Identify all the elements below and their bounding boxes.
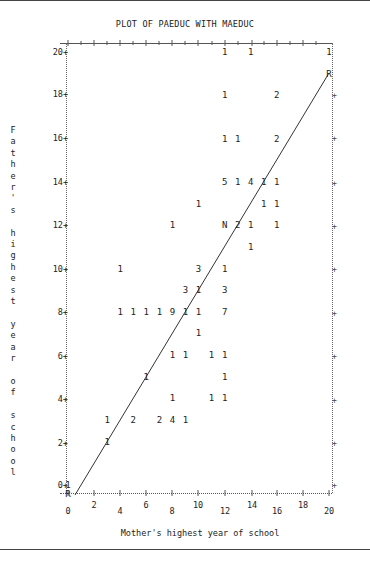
data-point: 1 <box>246 221 256 230</box>
data-point: 1 <box>272 199 282 208</box>
data-point: 1 <box>194 329 204 338</box>
data-point: 1 <box>154 307 164 316</box>
data-point: 2 <box>272 91 282 100</box>
data-point: 1 <box>220 91 230 100</box>
svg-text:+: + <box>332 439 337 448</box>
bottom-tick-marks <box>68 490 329 496</box>
data-point: 1 <box>180 416 190 425</box>
bottom-rule <box>0 549 370 550</box>
data-point: 1 <box>102 416 112 425</box>
data-point: 1 <box>167 221 177 230</box>
data-point: 1 <box>180 351 190 360</box>
data-point: 9 <box>167 307 177 316</box>
svg-text:+: + <box>332 396 337 405</box>
data-point: 1 <box>102 437 112 446</box>
data-point: 1 <box>220 351 230 360</box>
data-point: 1 <box>141 307 151 316</box>
plot-lines: +++ +++ +++ + <box>0 0 370 566</box>
data-point: 2 <box>154 416 164 425</box>
data-point: 1 <box>207 351 217 360</box>
data-point: 1 <box>194 286 204 295</box>
svg-text:+: + <box>332 134 337 143</box>
data-point: R <box>63 489 73 498</box>
data-point: 3 <box>194 264 204 273</box>
data-point: 1 <box>194 307 204 316</box>
data-point: 2 <box>128 416 138 425</box>
svg-text:+: + <box>332 481 337 490</box>
data-point: 4 <box>246 177 256 186</box>
regression-line <box>75 73 329 495</box>
data-point: 1 <box>259 177 269 186</box>
right-plus-marks: +++ +++ +++ + <box>332 91 337 490</box>
data-point: 7 <box>220 307 230 316</box>
data-point: 1 <box>115 307 125 316</box>
data-point: 1 <box>220 134 230 143</box>
data-point: 1 <box>220 372 230 381</box>
svg-text:+: + <box>332 352 337 361</box>
data-point: 3 <box>180 286 190 295</box>
data-point: 2 <box>233 221 243 230</box>
data-point: 3 <box>220 286 230 295</box>
data-point: 4 <box>167 416 177 425</box>
data-point: 1 <box>220 394 230 403</box>
svg-text:+: + <box>332 309 337 318</box>
data-point: 1 <box>324 48 334 57</box>
data-point: 1 <box>272 221 282 230</box>
data-point: 1 <box>220 264 230 273</box>
data-point: 1 <box>220 48 230 57</box>
data-point: 1 <box>141 372 151 381</box>
data-point: 1 <box>180 307 190 316</box>
svg-text:+: + <box>332 91 337 100</box>
svg-text:+: + <box>332 179 337 188</box>
data-point: 1 <box>128 307 138 316</box>
data-point: 2 <box>272 134 282 143</box>
data-point: 1 <box>233 177 243 186</box>
data-point: 1 <box>167 394 177 403</box>
data-point: 1 <box>272 177 282 186</box>
data-point: 1 <box>259 199 269 208</box>
data-point: 1 <box>167 351 177 360</box>
data-point: 1 <box>115 264 125 273</box>
svg-text:+: + <box>332 222 337 231</box>
svg-text:+: + <box>332 265 337 274</box>
data-point: R <box>324 69 334 78</box>
top-tick-marks <box>68 40 316 46</box>
data-point: 5 <box>220 177 230 186</box>
data-point: N <box>220 221 230 230</box>
data-point: 1 <box>246 48 256 57</box>
data-point: 1 <box>246 242 256 251</box>
data-point: 1 <box>194 199 204 208</box>
data-point: 1 <box>207 394 217 403</box>
data-point: 1 <box>233 134 243 143</box>
